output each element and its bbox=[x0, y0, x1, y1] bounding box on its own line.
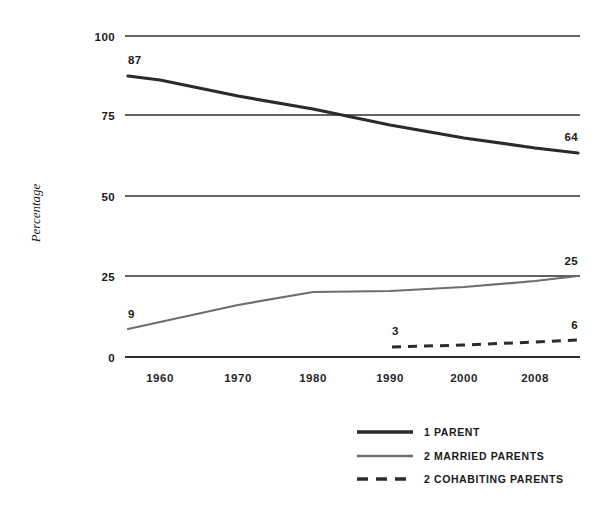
legend-label-married-parents: 2 MARRIED PARENTS bbox=[424, 450, 544, 462]
annotation-married-end: 25 bbox=[565, 255, 579, 267]
annotation-married-start: 9 bbox=[128, 308, 135, 320]
line-chart: 100 75 50 25 0 Percentage 1960 1970 1980… bbox=[0, 0, 611, 518]
y-tick-75: 75 bbox=[101, 110, 115, 122]
legend-label-cohabiting-parents: 2 COHABITING PARENTS bbox=[424, 473, 564, 485]
x-tick-1960: 1960 bbox=[146, 372, 174, 384]
x-tick-2000: 2000 bbox=[450, 372, 478, 384]
gridlines bbox=[125, 36, 580, 357]
annotation-one-parent-end: 64 bbox=[565, 131, 579, 143]
legend-item-married-parents[interactable]: 2 MARRIED PARENTS bbox=[357, 450, 544, 462]
y-axis-title-text: Percentage bbox=[28, 183, 43, 243]
y-tick-100: 100 bbox=[95, 31, 115, 43]
y-tick-labels: 100 75 50 25 0 bbox=[95, 31, 116, 364]
x-tick-2008: 2008 bbox=[521, 372, 549, 384]
series-line-married-parents bbox=[128, 276, 578, 329]
x-tick-1970: 1970 bbox=[224, 372, 252, 384]
legend-label-one-parent: 1 PARENT bbox=[424, 426, 480, 438]
y-tick-0: 0 bbox=[108, 352, 115, 364]
y-tick-25: 25 bbox=[101, 271, 115, 283]
x-tick-1990: 1990 bbox=[376, 372, 404, 384]
annotation-cohabiting-end: 6 bbox=[571, 319, 578, 331]
annotation-cohabiting-start: 3 bbox=[392, 325, 399, 337]
legend-item-cohabiting-parents[interactable]: 2 COHABITING PARENTS bbox=[357, 473, 564, 485]
legend-item-one-parent[interactable]: 1 PARENT bbox=[357, 426, 480, 438]
annotation-one-parent-start: 87 bbox=[128, 54, 141, 66]
y-tick-50: 50 bbox=[101, 191, 115, 203]
y-axis-title: Percentage bbox=[28, 183, 43, 243]
x-tick-labels: 1960 1970 1980 1990 2000 2008 bbox=[146, 372, 549, 384]
x-tick-1980: 1980 bbox=[299, 372, 327, 384]
chart-legend: 1 PARENT 2 MARRIED PARENTS 2 COHABITING … bbox=[357, 426, 564, 485]
chart-svg: 100 75 50 25 0 Percentage 1960 1970 1980… bbox=[0, 0, 611, 518]
series-line-cohabiting-parents bbox=[392, 340, 578, 347]
